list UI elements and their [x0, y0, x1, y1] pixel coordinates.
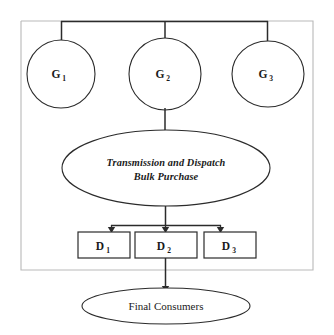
g1-subscript: 1 [62, 74, 66, 83]
supply-chain-diagram: G 1 G 2 G 3 Transmission and Dispatch Bu… [0, 0, 334, 335]
hub-label-line2: Bulk Purchase [133, 171, 199, 182]
g2-label: G [156, 68, 165, 80]
g3-label: G [259, 68, 268, 80]
diagram-canvas: G 1 G 2 G 3 Transmission and Dispatch Bu… [0, 0, 334, 335]
g3-circle [232, 41, 304, 107]
distributor-node-d2[interactable]: D 2 [135, 232, 197, 258]
hub-label-line1: Transmission and Dispatch [107, 157, 226, 168]
hub-ellipse [62, 130, 270, 206]
d1-subscript: 1 [106, 246, 110, 255]
distributor-node-d1[interactable]: D 1 [78, 232, 130, 258]
g1-label: G [52, 68, 61, 80]
d3-subscript: 3 [232, 246, 236, 255]
d2-label: D [157, 240, 165, 252]
d3-label: D [222, 240, 230, 252]
d2-box [135, 232, 197, 258]
generator-node-g2[interactable]: G 2 [129, 38, 201, 110]
hub-node[interactable]: Transmission and Dispatch Bulk Purchase [62, 130, 270, 206]
generator-node-g3[interactable]: G 3 [232, 41, 304, 107]
generator-node-g1[interactable]: G 1 [27, 40, 95, 108]
consumers-label: Final Consumers [129, 300, 204, 312]
consumers-node[interactable]: Final Consumers [82, 288, 250, 324]
distributor-node-d3[interactable]: D 3 [204, 232, 256, 258]
d2-subscript: 2 [167, 246, 171, 255]
hub-to-distributor-connector [108, 206, 224, 233]
g3-subscript: 3 [269, 74, 273, 83]
d1-label: D [96, 240, 104, 252]
g2-subscript: 2 [166, 74, 170, 83]
g1-circle [27, 40, 95, 108]
g2-circle [129, 38, 201, 110]
distributor-to-consumers-connector [162, 258, 169, 292]
